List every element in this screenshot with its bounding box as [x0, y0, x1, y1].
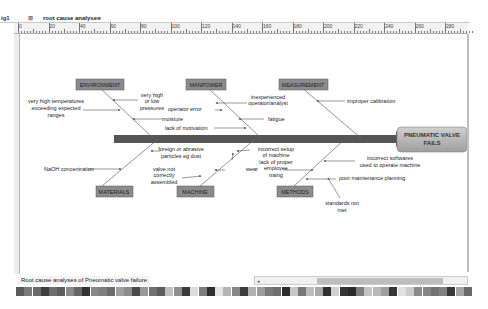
- cause-text: correctly: [154, 172, 175, 178]
- color-swatch[interactable]: [190, 287, 198, 296]
- problem-box[interactable]: PNEUMATIC VALVE FAILS: [397, 127, 467, 152]
- ruler-tick: [36, 31, 37, 33]
- ruler-tick: [177, 31, 178, 33]
- color-swatch[interactable]: [306, 287, 314, 296]
- color-swatch[interactable]: [331, 287, 339, 296]
- ruler-tick: [466, 31, 467, 33]
- color-swatch[interactable]: [49, 287, 57, 296]
- color-swatch[interactable]: [257, 287, 265, 296]
- color-swatch[interactable]: [240, 287, 248, 296]
- color-swatch[interactable]: [157, 287, 165, 296]
- color-swatch[interactable]: [24, 287, 32, 296]
- ruler-tick: [100, 31, 101, 33]
- scroll-left-arrow-icon[interactable]: ◂: [257, 277, 260, 285]
- color-swatch[interactable]: [439, 287, 447, 296]
- ruler-label: 120: [202, 23, 210, 29]
- color-swatch[interactable]: [298, 287, 306, 296]
- ruler-tick: [427, 31, 428, 33]
- category-materials[interactable]: MATERIALS: [96, 186, 133, 197]
- cause-text: foreign or abrasive: [158, 146, 204, 152]
- color-swatch[interactable]: [16, 287, 24, 296]
- ruler-tick: [283, 31, 284, 33]
- scrollbar-thumb[interactable]: [317, 278, 443, 284]
- color-swatch[interactable]: [91, 287, 99, 296]
- color-swatch[interactable]: [66, 287, 74, 296]
- color-swatch[interactable]: [290, 287, 298, 296]
- color-swatch[interactable]: [447, 287, 455, 296]
- color-swatch[interactable]: [431, 287, 439, 296]
- color-swatch[interactable]: [82, 287, 90, 296]
- ruler-tick: [415, 23, 416, 33]
- ruler-tick: [204, 31, 205, 33]
- category-measurement[interactable]: MEASUREMENT: [279, 79, 328, 90]
- color-swatch[interactable]: [356, 287, 364, 296]
- ruler-tick: [366, 31, 367, 33]
- color-swatch[interactable]: [74, 287, 82, 296]
- color-swatch[interactable]: [232, 287, 240, 296]
- category-machine[interactable]: MACHINE: [177, 186, 214, 197]
- color-swatch[interactable]: [406, 287, 414, 296]
- color-swatch[interactable]: [340, 287, 348, 296]
- ruler-tick: [88, 31, 89, 33]
- color-swatch[interactable]: [107, 287, 115, 296]
- ruler-tick: [271, 31, 272, 33]
- ruler-tick: [164, 31, 165, 33]
- color-swatch[interactable]: [57, 287, 65, 296]
- color-swatch[interactable]: [215, 287, 223, 296]
- color-swatch[interactable]: [464, 287, 472, 296]
- sheet-tab-root-cause[interactable]: Root cause analyses of Pneumatic valve f…: [18, 276, 150, 285]
- ruler-tick: [286, 31, 287, 33]
- ruler-tick: [39, 31, 40, 33]
- color-swatch[interactable]: [124, 287, 132, 296]
- color-swatch[interactable]: [207, 287, 215, 296]
- color-swatch[interactable]: [414, 287, 422, 296]
- category-manpower[interactable]: MANPOWER: [186, 79, 226, 90]
- color-swatch[interactable]: [282, 287, 290, 296]
- color-swatch[interactable]: [165, 287, 173, 296]
- color-swatch[interactable]: [381, 287, 389, 296]
- ruler-tick: [280, 31, 281, 33]
- ruler-tick: [219, 31, 220, 33]
- color-swatch[interactable]: [140, 287, 148, 296]
- ruler-tick: [323, 23, 324, 33]
- color-swatch[interactable]: [398, 287, 406, 296]
- category-label: MACHINE: [182, 189, 208, 195]
- color-swatch[interactable]: [273, 287, 281, 296]
- color-swatch[interactable]: [132, 287, 140, 296]
- color-swatch[interactable]: [364, 287, 372, 296]
- cause-text: assembled: [151, 179, 178, 185]
- color-swatch[interactable]: [33, 287, 41, 296]
- ruler-tick: [143, 31, 144, 33]
- ruler-tick: [201, 23, 202, 33]
- color-swatch[interactable]: [182, 287, 190, 296]
- color-swatch[interactable]: [423, 287, 431, 296]
- color-swatch[interactable]: [174, 287, 182, 296]
- ruler-tick: [357, 31, 358, 33]
- color-swatch[interactable]: [199, 287, 207, 296]
- color-swatch[interactable]: [323, 287, 331, 296]
- ruler-tick: [469, 31, 470, 33]
- ruler-label: 180: [294, 23, 302, 29]
- ruler-tick: [228, 31, 229, 33]
- color-swatch[interactable]: [265, 287, 273, 296]
- ruler-tick: [393, 31, 394, 33]
- color-swatch[interactable]: [248, 287, 256, 296]
- ruler-tick: [67, 31, 68, 33]
- color-swatch[interactable]: [116, 287, 124, 296]
- ruler-tick: [302, 31, 303, 33]
- diagram-canvas[interactable]: PNEUMATIC VALVE FAILS: [20, 34, 469, 272]
- color-swatch[interactable]: [41, 287, 49, 296]
- color-swatch[interactable]: [223, 287, 231, 296]
- category-methods[interactable]: METHODS: [277, 186, 313, 197]
- color-swatch[interactable]: [149, 287, 157, 296]
- color-swatch[interactable]: [456, 287, 464, 296]
- category-environment[interactable]: ENVIRONMENT: [76, 79, 124, 90]
- ruler-tick: [411, 31, 412, 33]
- color-swatch[interactable]: [315, 287, 323, 296]
- color-swatch[interactable]: [373, 287, 381, 296]
- ruler-tick: [454, 31, 455, 33]
- color-swatch[interactable]: [389, 287, 397, 296]
- horizontal-scrollbar[interactable]: ◂: [254, 276, 468, 285]
- color-swatch[interactable]: [99, 287, 107, 296]
- color-swatch[interactable]: [348, 287, 356, 296]
